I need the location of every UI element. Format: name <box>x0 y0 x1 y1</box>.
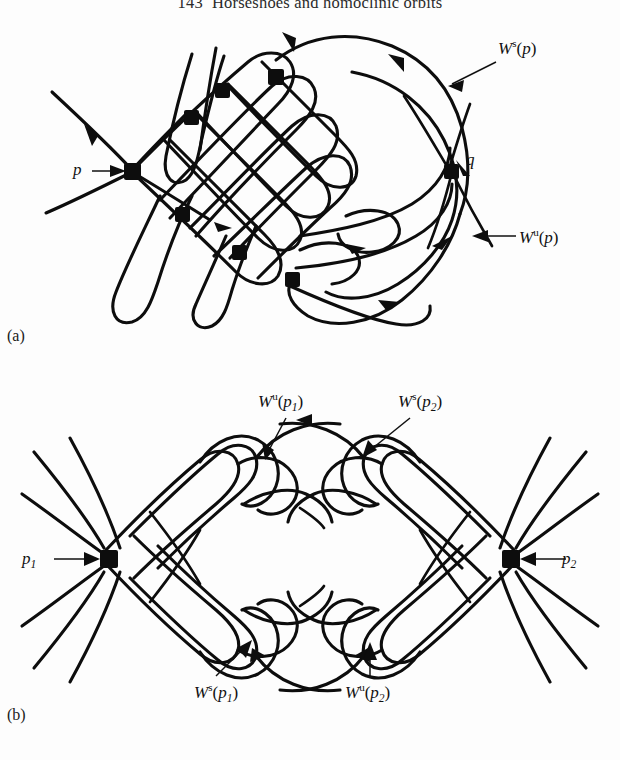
p2-sub: 2 <box>571 558 577 570</box>
ws-p2-W: W <box>398 392 412 411</box>
leader-arrow-p2 <box>520 552 536 566</box>
p1-sub: 1 <box>31 558 37 570</box>
fixed-point-node-p2 <box>502 550 520 568</box>
wu-p1-arg: p <box>283 392 292 411</box>
tangle-lattice-p1 <box>106 445 257 668</box>
ws-p2-arg: p <box>422 392 431 411</box>
ws-p1-close: ) <box>232 683 238 702</box>
p1-letter: p <box>22 549 31 568</box>
fixed-point-node-p1 <box>100 550 118 568</box>
leader-arrow-ws-p2 <box>362 440 377 458</box>
label-unstable-manifold-p2: Wu(p2) <box>345 681 390 704</box>
panel-b-diagram <box>0 0 620 760</box>
wu-p2-close: ) <box>385 683 391 702</box>
label-unstable-manifold-p1: Wu(p1) <box>258 390 303 413</box>
lower-heteroclinic-braid <box>200 586 420 691</box>
label-fixed-point-p1: p1 <box>22 549 36 570</box>
ws-p1-W: W <box>194 683 208 702</box>
tangle-lattice-p2 <box>363 445 514 668</box>
p2-letter: p <box>562 549 571 568</box>
wu-p2-arg: p <box>370 683 379 702</box>
wu-p1-W: W <box>258 392 272 411</box>
ws-p2-close: ) <box>436 392 442 411</box>
label-stable-manifold-p1: Ws(p1) <box>194 681 238 704</box>
panel-label-b: (b) <box>7 706 26 724</box>
upper-heteroclinic-braid <box>200 423 420 528</box>
wu-p2-W: W <box>345 683 359 702</box>
label-fixed-point-p2: p2 <box>562 549 576 570</box>
wu-p1-close: ) <box>298 392 304 411</box>
page-canvas: 143Horseshoes and homoclinic orbits <box>0 0 620 760</box>
leader-arrow-p1 <box>84 552 100 566</box>
ws-p1-arg: p <box>218 683 227 702</box>
label-stable-manifold-p2: Ws(p2) <box>398 390 442 413</box>
